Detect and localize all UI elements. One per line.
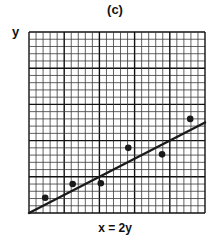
data-point [125, 145, 132, 152]
data-point [42, 194, 49, 201]
equation-caption: x = 2y [0, 221, 215, 235]
data-point [187, 116, 194, 123]
data-point [69, 181, 76, 188]
fit-line-segment [29, 123, 205, 214]
fit-line [29, 123, 205, 214]
scatter-plot [0, 0, 215, 243]
data-point [98, 180, 105, 187]
data-point [159, 151, 166, 158]
graph-paper-grid [29, 32, 205, 213]
